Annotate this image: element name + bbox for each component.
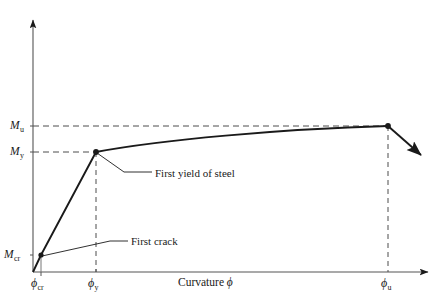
x-axis-title-symbol: ϕ <box>227 276 233 288</box>
moment-curvature-curve <box>33 126 388 272</box>
x-tick-label-phicr: ϕcr <box>31 277 43 289</box>
x-tick-label-phiu: ϕu <box>381 277 391 289</box>
plot-canvas <box>0 0 441 305</box>
y-tick-label-mu: Mu <box>10 120 24 132</box>
moment-curvature-figure: Mu My Mcr ϕcr ϕy ϕu Curvature ϕ First yi… <box>0 0 441 305</box>
annotation-first-yield: First yield of steel <box>155 168 235 179</box>
x-axis-title: Curvature ϕ <box>178 277 233 289</box>
x-tick-label-phiy: ϕy <box>88 277 98 289</box>
leader-line-first-crack <box>42 241 128 256</box>
failure-branch-arrow <box>388 126 421 155</box>
leader-line-first-yield <box>97 153 152 172</box>
annotation-first-crack: First crack <box>131 236 178 247</box>
data-point-first-crack <box>38 252 43 257</box>
data-point-ultimate <box>385 123 391 129</box>
y-tick-label-mcr: Mcr <box>4 249 20 261</box>
y-tick-label-my: My <box>10 146 24 158</box>
